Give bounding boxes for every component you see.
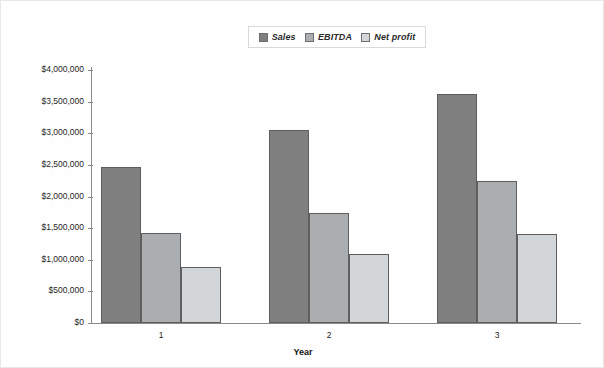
legend-swatch-ebitda bbox=[305, 33, 314, 42]
legend-label-sales: Sales bbox=[272, 32, 296, 42]
y-axis-tick-label: $1,000,000 bbox=[41, 254, 84, 264]
plot-area bbox=[91, 70, 581, 323]
bar-net-profit-year-3 bbox=[517, 234, 557, 323]
legend-swatch-sales bbox=[259, 33, 268, 42]
bar-ebitda-year-3 bbox=[477, 181, 517, 323]
bar-ebitda-year-1 bbox=[141, 233, 181, 323]
legend-entry-sales: Sales bbox=[259, 32, 296, 42]
bar-ebitda-year-2 bbox=[309, 213, 349, 323]
y-axis-tick-label: $1,500,000 bbox=[41, 222, 84, 232]
legend-swatch-net-profit bbox=[361, 33, 370, 42]
x-axis-tick-label: 2 bbox=[327, 330, 332, 340]
legend-label-ebitda: EBITDA bbox=[318, 32, 352, 42]
y-axis-tick-label: $4,000,000 bbox=[41, 64, 84, 74]
bar-sales-year-2 bbox=[269, 130, 309, 323]
x-axis-tick-label: 1 bbox=[159, 330, 164, 340]
y-axis-tick-label: $2,000,000 bbox=[41, 191, 84, 201]
x-axis-tick-label: 3 bbox=[495, 330, 500, 340]
y-axis-tick-label: $500,000 bbox=[49, 285, 84, 295]
legend-entry-ebitda: EBITDA bbox=[305, 32, 352, 42]
bar-net-profit-year-2 bbox=[349, 254, 389, 323]
y-axis-tick-label: $2,500,000 bbox=[41, 159, 84, 169]
y-axis-tick-label: $3,500,000 bbox=[41, 96, 84, 106]
x-axis-line bbox=[91, 323, 581, 324]
y-axis-tick-label: $0 bbox=[75, 317, 84, 327]
bar-sales-year-3 bbox=[437, 94, 477, 323]
x-axis-title: Year bbox=[1, 347, 604, 357]
y-axis-tick-label: $3,000,000 bbox=[41, 127, 84, 137]
bar-sales-year-1 bbox=[101, 167, 141, 323]
bar-net-profit-year-1 bbox=[181, 267, 221, 323]
chart-legend: Sales EBITDA Net profit bbox=[248, 26, 426, 48]
legend-label-net-profit: Net profit bbox=[374, 32, 415, 42]
bar-chart-figure: Sales EBITDA Net profit $0$500,000$1,000… bbox=[0, 0, 604, 368]
legend-entry-net-profit: Net profit bbox=[361, 32, 415, 42]
